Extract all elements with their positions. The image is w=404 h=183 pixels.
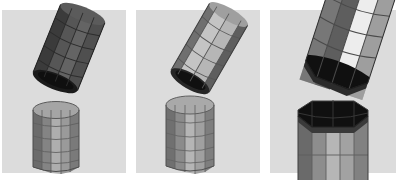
panel-2-canvas (134, 0, 262, 183)
panel-1-scene (0, 0, 128, 183)
base-facet-col-4 (195, 105, 205, 174)
panel-1-canvas (0, 0, 128, 183)
panel-2-scene (134, 0, 262, 183)
panel-1-base-container-cylinder (33, 102, 79, 175)
render-panel-1 (0, 0, 128, 183)
panel-3-open-base-container (298, 100, 368, 180)
panel-3-scene (268, 0, 398, 183)
base-facet-col-3 (51, 110, 61, 174)
base-facet-col-3 (185, 105, 195, 174)
base-facet-col-5 (205, 105, 214, 172)
base-facet-col-4 (61, 110, 70, 174)
render-panel-3 (268, 0, 398, 183)
panel-2-base-container-cylinder (166, 96, 214, 174)
figure-root (0, 0, 404, 183)
base-facet-col-5 (70, 110, 79, 172)
panel-3-canvas (268, 0, 398, 183)
render-panel-2 (134, 0, 262, 183)
